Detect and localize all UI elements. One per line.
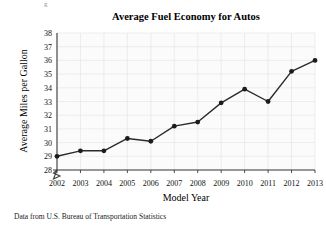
y-tick-label: 29 (44, 152, 52, 161)
y-tick-label: 33 (44, 98, 52, 107)
y-tick-label: 31 (44, 125, 52, 134)
y-tick-label: 38 (44, 29, 52, 38)
y-tick-label: 37 (44, 43, 52, 52)
data-point (195, 120, 200, 125)
y-tick-label: 32 (44, 111, 52, 120)
x-tick-label: 2008 (190, 179, 206, 188)
y-tick-label: 30 (44, 139, 52, 148)
data-point (242, 87, 247, 92)
data-point (289, 69, 294, 74)
data-point (148, 139, 153, 144)
stray-artifact-mark: g (44, 0, 48, 8)
source-note: Data from U.S. Bureau of Transportation … (14, 212, 166, 221)
data-point (102, 148, 107, 153)
x-tick-label: 2005 (119, 179, 135, 188)
chart-figure: g Average Fuel Economy for Autos 2829303… (0, 0, 326, 233)
data-point (125, 136, 130, 141)
data-point (172, 124, 177, 129)
x-tick-label: 2002 (49, 179, 65, 188)
x-tick-label: 2012 (284, 179, 300, 188)
y-axis-break-zigzag (54, 170, 61, 179)
data-point (219, 100, 224, 105)
y-tick-label: 36 (44, 56, 52, 65)
x-axis-title: Model Year (163, 192, 210, 203)
y-axis-title: Average Miles per Gallon (18, 49, 29, 152)
y-tick-label: 34 (44, 84, 52, 93)
x-tick-label: 2011 (260, 179, 276, 188)
data-point (55, 154, 60, 159)
data-point (266, 99, 271, 104)
x-tick-label: 2010 (237, 179, 253, 188)
x-tick-label: 2009 (213, 179, 229, 188)
y-axis-tick-labels: 2829303132333435363738 (44, 29, 52, 175)
x-tick-label: 2004 (96, 179, 112, 188)
x-tick-label: 2003 (72, 179, 88, 188)
x-axis-tick-labels: 2002200320042005200620072008200920102011… (49, 179, 323, 188)
fuel-economy-line-chart: Average Fuel Economy for Autos 282930313… (0, 0, 326, 233)
x-tick-label: 2007 (166, 179, 182, 188)
chart-title: Average Fuel Economy for Autos (112, 11, 260, 22)
y-tick-label: 35 (44, 70, 52, 79)
x-tick-label: 2006 (143, 179, 159, 188)
y-tick-label: 28 (44, 166, 52, 175)
data-point (313, 58, 318, 63)
x-tick-label: 2013 (307, 179, 323, 188)
data-point (78, 148, 83, 153)
